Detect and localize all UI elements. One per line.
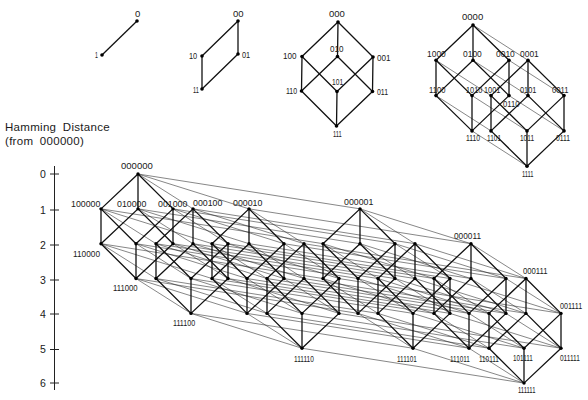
cube-4d: 0000100001000010000111001010100101100101… <box>427 12 570 179</box>
vertex-label: 001 <box>377 53 391 63</box>
edge-thick <box>267 244 304 279</box>
vertex-label: 0110 <box>503 99 519 109</box>
vertex-dot <box>524 277 527 280</box>
edge-thin <box>249 209 304 244</box>
edge-thin <box>193 209 415 244</box>
vertex-label: 010000 <box>117 199 146 209</box>
vertex-dot <box>356 277 359 280</box>
vertex-dot <box>526 59 530 63</box>
edge-thick <box>156 209 193 244</box>
vertex-dot <box>434 59 438 63</box>
vertex-label: 111000 <box>113 283 138 293</box>
vertex-dot <box>432 312 435 315</box>
edge-thick <box>302 313 339 348</box>
vertex-dot <box>136 172 139 175</box>
vertex-dot <box>504 312 507 315</box>
vertex-dot <box>469 242 472 245</box>
vertex-dot <box>99 242 102 245</box>
axis-tick-label: 1 <box>40 204 46 216</box>
vertex-dot <box>247 242 250 245</box>
vertex-label: 0011 <box>552 85 568 95</box>
hamming-distance-axis: 0123456 <box>40 166 59 390</box>
vertex-dot <box>154 277 157 280</box>
vertex-label: 100000 <box>71 199 100 209</box>
edge-thick <box>436 96 472 131</box>
axis-tick-label: 3 <box>40 274 46 286</box>
vertex-dot <box>210 277 213 280</box>
vertex-dot <box>371 55 375 59</box>
vertex-dot <box>337 312 340 315</box>
edge-thick <box>136 244 173 279</box>
edge-thick <box>337 92 338 127</box>
vertex-dot <box>393 277 396 280</box>
vertex-label: 01 <box>242 50 250 60</box>
edge-thin <box>506 279 561 314</box>
axis-title-line1: Hamming Distance <box>5 121 110 133</box>
vertex-dot <box>448 312 451 315</box>
vertex-label: 111100 <box>173 318 195 328</box>
edge-thin <box>436 96 491 131</box>
thick-edges <box>102 21 137 55</box>
edge-thin <box>395 244 450 279</box>
vertex-dot <box>154 242 157 245</box>
vertex-label: 000001 <box>344 197 373 207</box>
edge-thick <box>247 279 284 314</box>
edge-thin <box>469 313 524 348</box>
cube-2d: 00100111 <box>189 9 250 95</box>
vertex-label: 0010 <box>496 49 515 59</box>
vertex-label: 111 <box>333 129 342 139</box>
edge-thin <box>506 313 561 348</box>
vertex-label: 111101 <box>397 354 417 364</box>
vertex-dot <box>245 277 248 280</box>
vertex-labels: 00100111 <box>189 9 250 95</box>
vertex-dot <box>487 347 490 350</box>
vertices <box>200 19 240 91</box>
edge-thin <box>339 313 561 348</box>
vertex-dot <box>134 242 137 245</box>
edge-thin <box>247 279 302 314</box>
vertex-label: 110111 <box>479 354 499 364</box>
vertex-dot <box>236 19 240 23</box>
edge-thin <box>101 209 323 244</box>
edge-thick <box>191 279 228 314</box>
vertex-dot <box>469 277 472 280</box>
vertex-label: 0100 <box>463 49 482 59</box>
edge-thin <box>358 279 413 314</box>
cube-1d: 01 <box>95 9 140 60</box>
edge-thin <box>101 244 156 279</box>
vertex-dot <box>171 242 174 245</box>
edge-thin <box>136 244 191 279</box>
vertex-label: 001111 <box>560 301 582 311</box>
vertex-dot <box>413 277 416 280</box>
vertex-dot <box>471 23 475 27</box>
vertex-label: 111111 <box>518 385 535 395</box>
vertex-dot <box>467 347 470 350</box>
cube-3d: 000100010001110101011111 <box>283 9 391 139</box>
vertex-dot <box>336 55 340 59</box>
cube-6d: 0000001000000100000010000001000000100000… <box>71 161 582 395</box>
vertex-dot <box>265 312 268 315</box>
vertex-label: 000 <box>329 9 345 19</box>
edge-thick <box>202 54 238 89</box>
vertex-label: 101 <box>332 77 343 87</box>
edge-thick <box>373 57 374 92</box>
vertex-label: 000111 <box>523 266 548 276</box>
axis-tick-label: 5 <box>40 343 46 355</box>
axis-tick-label: 4 <box>40 308 46 320</box>
vertex-dot <box>471 59 475 63</box>
vertex-dot <box>413 242 416 245</box>
vertex-dot <box>356 312 359 315</box>
vertex-dot <box>525 164 529 168</box>
vertex-dot <box>335 124 339 128</box>
vertices <box>434 23 566 168</box>
vertex-dot <box>393 242 396 245</box>
vertex-label: 111011 <box>450 354 470 364</box>
vertex-label: 0 <box>135 9 140 19</box>
edge-thick <box>102 21 137 55</box>
edge-thick <box>469 313 506 348</box>
vertex-dot <box>411 347 414 350</box>
edge-thin <box>136 279 191 314</box>
vertex-label: 0000 <box>462 12 483 22</box>
vertex-label: 1001 <box>484 85 500 95</box>
vertex-label: 000011 <box>454 231 481 241</box>
